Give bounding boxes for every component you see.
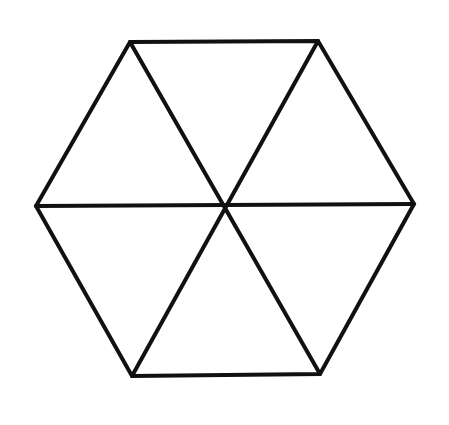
hexagon-diagram bbox=[0, 0, 449, 425]
diagonal-left-to-right bbox=[36, 204, 414, 206]
hexagon-diagonals bbox=[36, 41, 414, 376]
